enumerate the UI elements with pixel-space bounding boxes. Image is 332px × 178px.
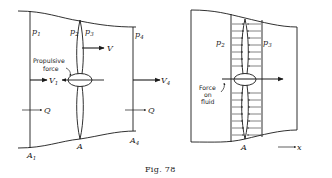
label-p2: p2 [216,38,225,48]
label-x-axis: x [297,143,302,152]
label-q-left: Q [44,106,51,115]
label-force: Force [199,84,216,91]
label-a: A [76,142,83,151]
stream-tube-top-boundary [18,11,136,27]
label-p2: p2 [70,27,79,37]
label-fluid: fluid [201,98,215,105]
label-p3: p3 [85,27,94,37]
label-force: force [43,65,59,72]
label-p4: p4 [135,30,144,40]
label-a4: A4 [129,136,140,146]
label-a: A [240,143,247,152]
right-diagram [191,10,297,147]
propeller-blade-top [77,20,84,74]
label-p3: p3 [263,38,272,48]
label-a1: A1 [26,151,36,161]
force-on-fluid-leader [221,83,224,92]
label-on: on [204,91,212,98]
label-v4: V4 [161,76,171,86]
propulsive-force-leader [66,68,70,76]
label-v: V [107,44,114,53]
figure-caption: Fig. 78 [145,165,176,174]
control-volume-outline [191,10,297,142]
left-diagram-labels: p1 p2 p3 p4 V V1 V4 Q Q A A1 A4 Propulsi… [26,27,171,161]
label-propulsive: Propulsive [33,57,65,65]
label-v1: V1 [49,76,58,86]
label-q-right: Q [148,106,155,115]
figure-canvas: p1 p2 p3 p4 V V1 V4 Q Q A A1 A4 Propulsi… [0,0,332,178]
propeller-blade-bottom [77,86,84,139]
label-p1: p1 [32,27,41,37]
